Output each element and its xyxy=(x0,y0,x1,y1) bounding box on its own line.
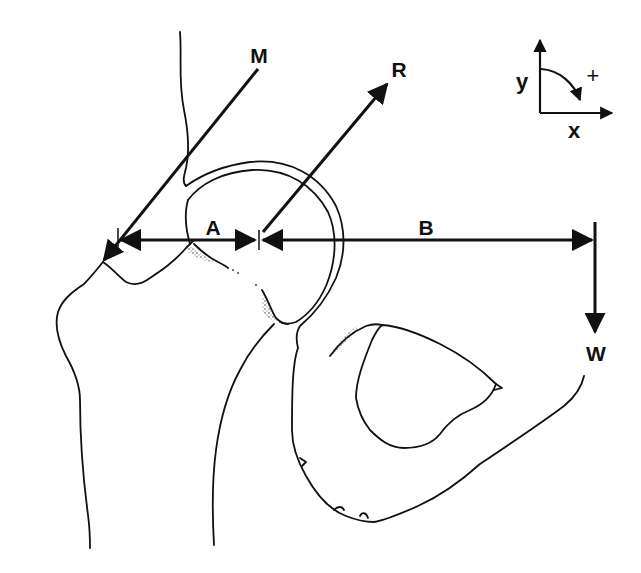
femur-outline xyxy=(56,200,288,548)
coordinate-axes xyxy=(540,40,612,113)
acetabulum-inner-outline xyxy=(188,170,335,324)
x-axis-label: x xyxy=(568,120,580,142)
moment-arm-a-label: A xyxy=(205,217,220,238)
rotation-sign-label: + xyxy=(587,65,600,87)
force-r-label: R xyxy=(391,59,406,80)
obturator-foramen-outline xyxy=(330,324,502,448)
rotation-arrow xyxy=(541,69,580,100)
y-axis-label: y xyxy=(516,71,528,93)
moment-arm-b-label: B xyxy=(418,217,433,238)
force-w-label: W xyxy=(586,343,606,364)
force-r-vector xyxy=(263,84,387,232)
hip-free-body-diagram xyxy=(0,0,641,573)
force-m-label: M xyxy=(250,45,268,66)
